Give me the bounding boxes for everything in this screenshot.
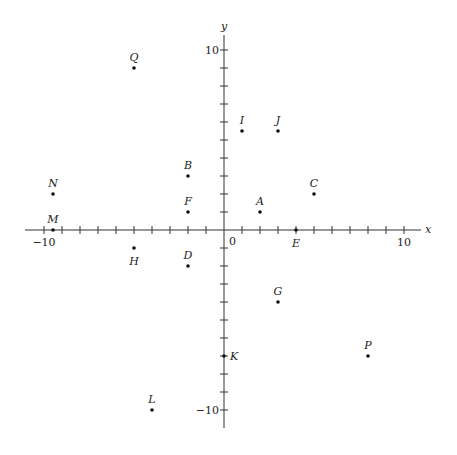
point-q: Q: [129, 51, 138, 70]
point-marker: [132, 66, 136, 70]
point-marker: [366, 354, 370, 358]
coordinate-plane: x y 0 −101010−10 QIJBNCFAMEHDGKPL: [0, 0, 457, 455]
point-i: I: [239, 114, 245, 133]
point-marker: [312, 192, 316, 196]
origin-label: 0: [229, 235, 236, 248]
point-label: K: [229, 350, 239, 363]
point-m: M: [46, 213, 59, 232]
point-marker: [186, 264, 190, 268]
point-b: B: [183, 159, 192, 178]
point-marker: [51, 192, 55, 196]
point-marker: [186, 174, 190, 178]
point-label: I: [239, 114, 245, 127]
point-marker: [51, 228, 55, 232]
point-c: C: [310, 177, 319, 196]
y-tick-label: 10: [205, 44, 219, 57]
x-tick-label: 10: [397, 236, 411, 249]
y-axis-label: y: [220, 20, 228, 33]
point-label: B: [183, 159, 192, 172]
point-marker: [276, 129, 280, 133]
point-h: H: [128, 246, 139, 268]
point-e: E: [291, 228, 300, 250]
axes: x y 0: [25, 20, 432, 428]
x-axis-label: x: [425, 223, 432, 236]
point-p: P: [363, 339, 372, 358]
point-label: D: [183, 249, 193, 262]
point-label: F: [183, 195, 192, 208]
point-marker: [240, 129, 244, 133]
point-label: A: [255, 195, 264, 208]
x-tick-label: −10: [32, 236, 55, 249]
point-f: F: [183, 195, 192, 214]
point-marker: [186, 210, 190, 214]
point-label: N: [47, 177, 58, 190]
point-label: J: [274, 114, 281, 127]
point-marker: [222, 354, 226, 358]
point-marker: [276, 300, 280, 304]
point-label: G: [274, 285, 283, 298]
point-label: C: [310, 177, 319, 190]
point-a: A: [255, 195, 264, 214]
points: QIJBNCFAMEHDGKPL: [46, 51, 372, 412]
y-tick-label: −10: [196, 404, 219, 417]
point-marker: [132, 246, 136, 250]
point-n: N: [47, 177, 58, 196]
point-label: E: [291, 237, 300, 250]
point-j: J: [274, 114, 281, 133]
point-marker: [258, 210, 262, 214]
point-label: H: [128, 255, 139, 268]
point-d: D: [183, 249, 193, 268]
point-marker: [294, 228, 298, 232]
point-l: L: [147, 393, 155, 412]
point-label: L: [147, 393, 155, 406]
point-marker: [150, 408, 154, 412]
point-g: G: [274, 285, 283, 304]
point-label: Q: [129, 51, 138, 64]
point-label: M: [46, 213, 59, 226]
point-label: P: [363, 339, 372, 352]
point-k: K: [222, 350, 239, 363]
